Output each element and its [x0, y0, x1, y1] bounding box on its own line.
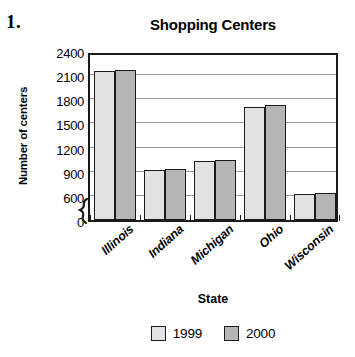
- x-category-label: Michigan: [188, 222, 236, 268]
- x-axis-title: State: [88, 292, 338, 306]
- x-axis-tick: [240, 215, 241, 221]
- y-tick-label: 1500: [34, 119, 84, 132]
- x-category-label: Wisconsin: [282, 222, 336, 273]
- bar: [94, 71, 115, 220]
- y-tick-label: 1800: [34, 95, 84, 108]
- bar: [165, 169, 186, 220]
- x-axis-tick: [290, 215, 291, 221]
- x-category-label: Illinois: [99, 222, 137, 258]
- bar-group: [240, 55, 290, 220]
- problem-number: 1.: [6, 12, 21, 31]
- x-axis-tick: [90, 215, 91, 221]
- bar-group: [190, 55, 240, 220]
- legend-label: 1999: [173, 326, 202, 341]
- bars-layer: [90, 55, 336, 220]
- bar: [315, 193, 336, 220]
- x-axis-tick: [190, 215, 191, 221]
- x-axis-tick: [140, 215, 141, 221]
- bar-group: [140, 55, 190, 220]
- legend-entry: 2000: [224, 326, 275, 341]
- bar: [294, 194, 315, 220]
- chart-title: Shopping Centers: [88, 16, 338, 33]
- chart-legend: 19992000: [88, 326, 338, 341]
- x-axis-tick: [339, 215, 340, 221]
- legend-swatch: [151, 326, 166, 341]
- bar: [244, 107, 265, 220]
- bar: [215, 160, 236, 220]
- bar: [144, 170, 165, 220]
- y-tick-label: 2400: [34, 47, 84, 60]
- y-tick-label: 1200: [34, 143, 84, 156]
- y-axis-title: Number of centers: [17, 71, 29, 201]
- legend-label: 2000: [246, 326, 275, 341]
- x-axis-category-labels: IllinoisIndianaMichiganOhioWisconsin: [88, 222, 350, 284]
- bar-group: [90, 55, 140, 220]
- bar: [194, 161, 215, 220]
- y-tick-label: 900: [34, 167, 84, 180]
- bar-group: [290, 55, 340, 220]
- plot-area: [88, 53, 338, 222]
- x-category-label: Indiana: [146, 222, 187, 261]
- x-category-label: Ohio: [256, 222, 286, 251]
- bar: [115, 70, 136, 220]
- bar: [265, 105, 286, 220]
- legend-entry: 1999: [151, 326, 202, 341]
- y-tick-label: 2100: [34, 71, 84, 84]
- legend-swatch: [224, 326, 239, 341]
